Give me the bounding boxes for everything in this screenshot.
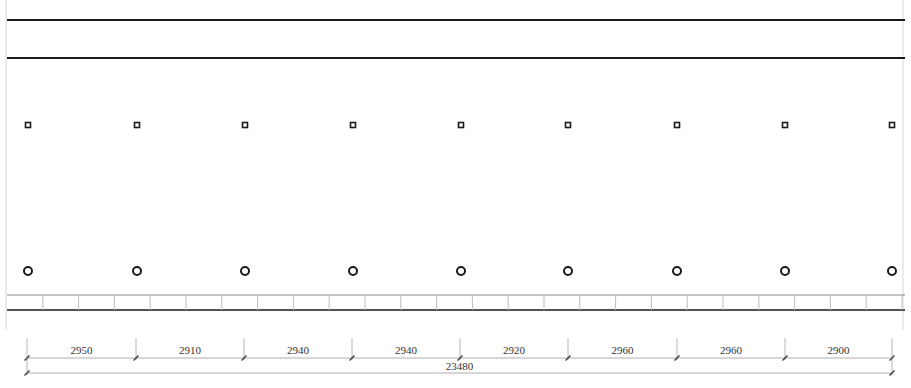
- circle-column-marker: [24, 267, 32, 275]
- square-column-marker: [459, 123, 464, 128]
- dimension-label: 2960: [612, 344, 635, 356]
- circle-column-marker: [888, 267, 896, 275]
- circle-column-marker: [564, 267, 572, 275]
- dimension-label: 2950: [71, 344, 94, 356]
- dimension-chain: 2950291029402940292029602960290023480: [25, 338, 895, 376]
- circle-column-marker: [349, 267, 357, 275]
- frame: [6, 0, 903, 330]
- dimension-label: 2940: [395, 344, 418, 356]
- circle-column-marker: [241, 267, 249, 275]
- dimension-label: 2910: [179, 344, 202, 356]
- circle-column-marker: [781, 267, 789, 275]
- top-beam-lines: [7, 20, 905, 58]
- square-column-marker: [566, 123, 571, 128]
- square-column-markers: [26, 123, 895, 128]
- dimension-label: 2920: [503, 344, 526, 356]
- square-column-marker: [135, 123, 140, 128]
- circle-column-marker: [673, 267, 681, 275]
- square-column-marker: [783, 123, 788, 128]
- structural-drawing: 2950291029402940292029602960290023480: [0, 0, 911, 388]
- circle-column-markers: [24, 267, 896, 275]
- circle-column-marker: [457, 267, 465, 275]
- square-column-marker: [351, 123, 356, 128]
- square-column-marker: [890, 123, 895, 128]
- dimension-label: 2940: [287, 344, 310, 356]
- dimension-label: 2900: [828, 344, 851, 356]
- tile-strip: [7, 295, 905, 310]
- square-column-marker: [675, 123, 680, 128]
- total-dimension-label: 23480: [446, 360, 474, 372]
- square-column-marker: [26, 123, 31, 128]
- dimension-label: 2960: [720, 344, 743, 356]
- circle-column-marker: [133, 267, 141, 275]
- square-column-marker: [243, 123, 248, 128]
